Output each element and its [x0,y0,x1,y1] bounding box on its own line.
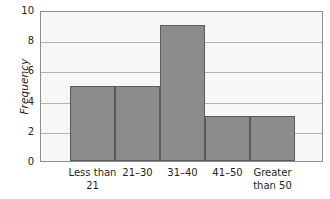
y-tick-label-8: 8 [12,36,34,46]
y-tick-label-6: 6 [12,66,34,76]
bar-21-30 [115,86,160,162]
bar-41-50 [205,116,250,161]
bar-greater-than-50 [250,116,295,161]
plot-area [40,11,323,162]
x-tick-label-line1: Greater [237,167,308,180]
bar-31-40 [160,25,205,161]
bar-less-than-21 [70,86,115,162]
y-tick-label-4: 4 [12,97,34,107]
bars-layer [41,12,322,161]
x-tick-label-line2: 21 [57,180,128,193]
y-axis-title: Frequency [17,11,31,162]
histogram-chart: Frequency 10 8 6 4 2 0 Less than 21 21–3… [0,0,330,199]
y-tick-label-2: 2 [12,127,34,137]
x-tick-label-line2: than 50 [237,180,308,193]
y-tick-label-10: 10 [12,6,34,16]
y-tick-label-0: 0 [12,157,34,167]
x-tick-label-greater-than-50: Greater than 50 [237,167,308,192]
